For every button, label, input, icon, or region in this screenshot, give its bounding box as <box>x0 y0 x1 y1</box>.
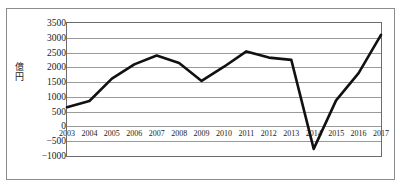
chart-canvas <box>0 0 403 187</box>
plot-border <box>67 23 382 157</box>
chart-figure: 億 円 3500300025002000150010005000−500−100… <box>0 0 403 187</box>
data-series-line <box>67 35 381 149</box>
plot-area <box>0 0 403 187</box>
gridlines <box>67 39 381 142</box>
